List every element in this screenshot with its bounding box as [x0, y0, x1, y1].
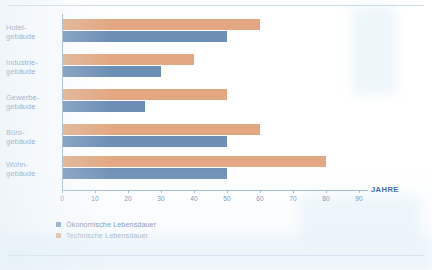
bar-oekonomische-hotel: [62, 31, 227, 42]
category-label-wohn: Wohn- gebäude: [6, 160, 60, 178]
x-tick-label: 90: [347, 195, 371, 202]
x-tick: [326, 190, 327, 193]
x-tick: [95, 190, 96, 193]
x-tick: [293, 190, 294, 193]
bar-technische-gewerbe: [62, 89, 227, 100]
bar-technische-hotel: [62, 19, 260, 30]
category-label-line: Hotel-: [6, 23, 60, 32]
x-tick: [359, 190, 360, 193]
category-label-line: gebäude: [6, 137, 60, 146]
category-label-hotel: Hotel- gebäude: [6, 23, 60, 41]
x-tick: [260, 190, 261, 193]
x-tick-label: 30: [149, 195, 173, 202]
category-label-line: gebäude: [6, 32, 60, 41]
category-label-line: Wohn-: [6, 160, 60, 169]
x-tick-label: 60: [248, 195, 272, 202]
x-tick-label: 70: [281, 195, 305, 202]
category-label-line: Büro-: [6, 128, 60, 137]
category-label-line: gebäude: [6, 102, 60, 111]
x-tick: [161, 190, 162, 193]
legend-swatch-icon: [56, 233, 61, 238]
legend-label: Ökonomische Lebensdauer: [66, 220, 156, 229]
x-tick-label: 10: [83, 195, 107, 202]
legend-item-technische: Technische Lebensdauer: [56, 230, 156, 241]
category-label-line: Industrie-: [6, 58, 60, 67]
x-tick-label: 20: [116, 195, 140, 202]
x-tick-label: 50: [215, 195, 239, 202]
category-label-line: Gewerbe-: [6, 93, 60, 102]
legend-swatch-icon: [56, 222, 61, 227]
x-tick: [62, 190, 63, 193]
category-label-industrie: Industrie- gebäude: [6, 58, 60, 76]
bar-oekonomische-buero: [62, 136, 227, 147]
category-label-line: gebäude: [6, 169, 60, 178]
x-axis-unit-label: JAHRE: [371, 185, 399, 194]
bar-oekonomische-industrie: [62, 66, 161, 77]
x-tick: [128, 190, 129, 193]
category-label-line: gebäude: [6, 67, 60, 76]
x-tick: [227, 190, 228, 193]
category-label-gewerbe: Gewerbe- gebäude: [6, 93, 60, 111]
bar-technische-buero: [62, 124, 260, 135]
x-tick-label: 80: [314, 195, 338, 202]
x-axis-line: [62, 190, 368, 191]
legend-item-oekonomische: Ökonomische Lebensdauer: [56, 219, 156, 230]
chart-legend: Ökonomische Lebensdauer Technische Leben…: [56, 219, 156, 241]
bar-oekonomische-gewerbe: [62, 101, 145, 112]
y-axis-line: [62, 14, 63, 191]
bar-oekonomische-wohn: [62, 168, 227, 179]
x-tick: [194, 190, 195, 193]
chart-page: Hotel- gebäude Industrie- gebäude Gewerb…: [0, 0, 432, 270]
bar-technische-industrie: [62, 54, 194, 65]
page-rule-bottom: [8, 255, 424, 256]
x-tick-label: 0: [50, 195, 74, 202]
x-tick-label: 40: [182, 195, 206, 202]
page-rule-top: [8, 5, 424, 6]
legend-label: Technische Lebensdauer: [66, 231, 148, 240]
category-label-buero: Büro- gebäude: [6, 128, 60, 146]
bar-technische-wohn: [62, 156, 326, 167]
